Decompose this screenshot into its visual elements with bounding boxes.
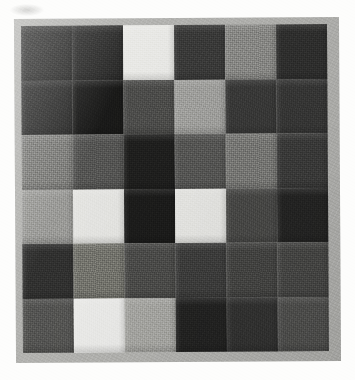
quilt-patch-r6c1 xyxy=(23,298,74,353)
quilt-border-binding xyxy=(14,17,341,363)
quilt-patch-r5c4 xyxy=(175,243,226,298)
quilt-patch-r3c2 xyxy=(73,134,124,189)
quilt-patch-r2c6 xyxy=(276,79,327,134)
quilt-patch-r3c6 xyxy=(277,133,328,188)
quilt-patch-r4c4 xyxy=(175,188,226,243)
quilt-patch-r6c3 xyxy=(125,298,176,353)
quilt-patch-r6c2 xyxy=(74,298,125,353)
quilt-patch-r5c3 xyxy=(124,243,175,298)
quilt-patch-r3c5 xyxy=(226,133,277,188)
quilt-patch-r1c1 xyxy=(21,26,72,81)
quilt-patch-r4c6 xyxy=(277,188,328,243)
quilt-patch-r2c1 xyxy=(21,80,72,135)
quilt-patch-r2c2 xyxy=(72,80,123,135)
scan-smudge xyxy=(10,4,44,16)
photograph-canvas xyxy=(0,0,355,380)
quilt-patch-r1c6 xyxy=(276,24,327,79)
quilt-patch-r4c3 xyxy=(124,189,175,244)
quilt-patch-r2c5 xyxy=(225,79,276,134)
quilt-patch-r5c5 xyxy=(226,242,277,297)
quilt-patch-r6c4 xyxy=(176,297,227,352)
quilt-patch-r4c1 xyxy=(22,189,73,244)
quilt-patch-r1c5 xyxy=(225,24,276,79)
quilt-patch-r5c2 xyxy=(73,243,124,298)
quilt-patch-r4c2 xyxy=(73,189,124,244)
quilt-patch-r6c5 xyxy=(227,297,278,352)
quilt-patch-r1c2 xyxy=(72,25,123,80)
quilt-patch-r3c3 xyxy=(124,134,175,189)
quilt-patch-r5c6 xyxy=(277,242,328,297)
quilt-patch-r1c4 xyxy=(174,25,225,80)
quilt-patch-r2c4 xyxy=(174,79,225,134)
quilt-patch-r3c4 xyxy=(175,134,226,189)
quilt-patch-r4c5 xyxy=(226,188,277,243)
quilt-patch-r5c1 xyxy=(22,244,73,299)
quilt-patch-r3c1 xyxy=(22,135,73,190)
quilt-patch-r1c3 xyxy=(123,25,174,80)
quilt-patch-grid xyxy=(21,24,329,353)
quilt-patch-r6c6 xyxy=(278,297,329,352)
quilt-patch-r2c3 xyxy=(123,80,174,135)
